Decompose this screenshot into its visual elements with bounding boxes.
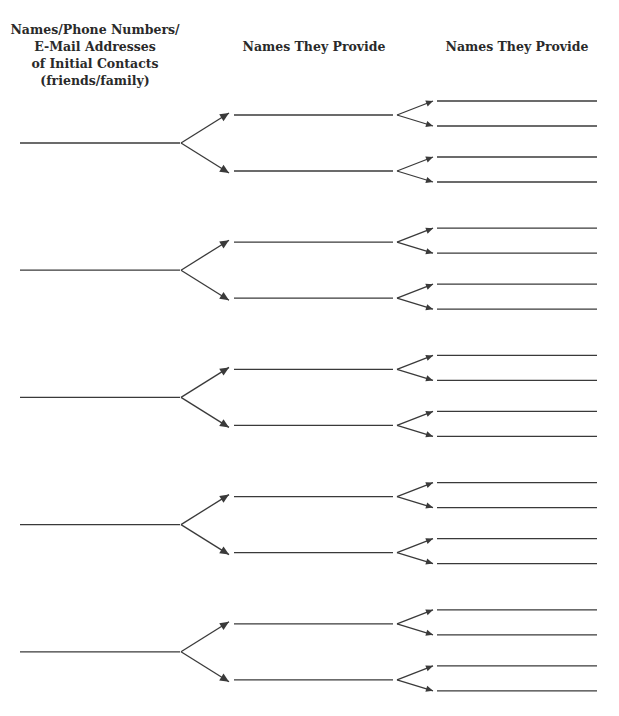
arrowhead-icon bbox=[425, 538, 433, 544]
arrowhead-icon bbox=[425, 482, 433, 488]
arrowhead-icon bbox=[425, 284, 433, 290]
arrowhead-icon bbox=[425, 248, 433, 254]
referral-tree bbox=[0, 0, 619, 716]
arrowhead-icon bbox=[425, 503, 433, 509]
arrowhead-icon bbox=[219, 546, 229, 554]
arrowhead-icon bbox=[219, 113, 229, 121]
arrowhead-icon bbox=[425, 177, 433, 183]
arrowhead-icon bbox=[425, 665, 433, 671]
arrowhead-icon bbox=[425, 411, 433, 417]
arrowhead-icon bbox=[219, 292, 229, 300]
arrowhead-icon bbox=[425, 121, 433, 127]
arrowhead-icon bbox=[425, 355, 433, 361]
arrowhead-icon bbox=[425, 431, 433, 437]
arrowhead-icon bbox=[425, 686, 433, 692]
arrowhead-icon bbox=[219, 674, 229, 682]
arrowhead-icon bbox=[425, 157, 433, 163]
arrowhead-icon bbox=[219, 240, 229, 248]
arrowhead-icon bbox=[425, 630, 433, 636]
arrowhead-icon bbox=[425, 375, 433, 381]
arrowhead-icon bbox=[219, 367, 229, 375]
arrowhead-icon bbox=[425, 228, 433, 234]
arrowhead-icon bbox=[425, 559, 433, 565]
arrowhead-icon bbox=[425, 101, 433, 107]
arrowhead-icon bbox=[219, 622, 229, 630]
arrowhead-icon bbox=[425, 304, 433, 310]
arrowhead-icon bbox=[219, 165, 229, 173]
arrowhead-icon bbox=[425, 609, 433, 615]
arrowhead-icon bbox=[219, 495, 229, 503]
arrowhead-icon bbox=[219, 419, 229, 427]
